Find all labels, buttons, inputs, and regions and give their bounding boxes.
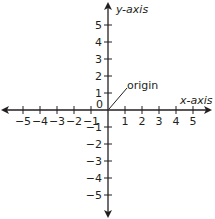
x-tick-label: 2 — [139, 115, 146, 128]
origin-zero-label: 0 — [96, 98, 103, 111]
x-tick-label: 5 — [190, 115, 197, 128]
x-tick-label: −3 — [49, 115, 65, 128]
y-tick-label: 5 — [95, 19, 102, 32]
y-tick-label: 4 — [95, 36, 102, 49]
x-tick-label: −2 — [66, 115, 82, 128]
coordinate-plane: −5−4−3−2−112345 54321−1−2−3−4−5 0 origin… — [0, 0, 215, 219]
origin-label: origin — [127, 79, 158, 92]
origin-leader-line — [109, 88, 127, 109]
y-tick-label: −5 — [86, 189, 102, 202]
x-axis-ticks: −5−4−3−2−112345 — [15, 106, 197, 128]
y-tick-label: −4 — [86, 172, 102, 185]
x-tick-label: 1 — [122, 115, 129, 128]
y-tick-label: −3 — [86, 155, 102, 168]
x-tick-label: −4 — [32, 115, 48, 128]
x-axis-label: x-axis — [179, 94, 213, 107]
y-tick-label: −1 — [86, 121, 102, 134]
x-tick-label: −5 — [15, 115, 31, 128]
y-tick-label: 3 — [95, 53, 102, 66]
y-tick-label: 2 — [95, 70, 102, 83]
x-tick-label: 3 — [156, 115, 163, 128]
y-tick-label: −2 — [86, 138, 102, 151]
y-axis-label: y-axis — [115, 3, 148, 16]
x-tick-label: 4 — [173, 115, 180, 128]
